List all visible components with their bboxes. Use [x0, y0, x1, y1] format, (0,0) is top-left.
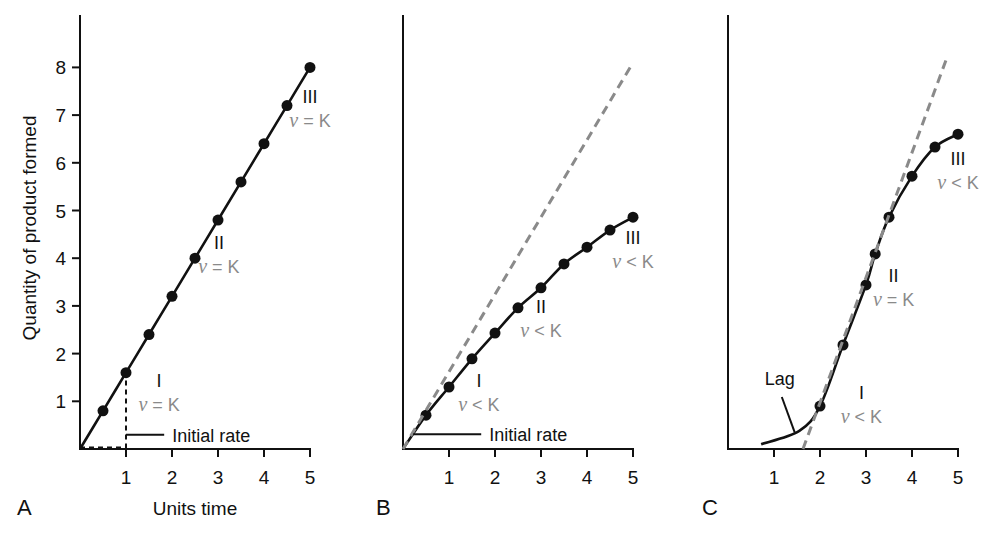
rate-label: ν < K: [520, 319, 561, 341]
phase-label: III: [302, 87, 317, 107]
data-point: [605, 225, 616, 236]
data-point: [559, 258, 570, 269]
panel-letter-a: A: [17, 495, 32, 520]
phase-label: I: [859, 383, 864, 403]
data-point: [236, 176, 247, 187]
x-tick-label: 1: [769, 467, 780, 488]
rate-label: ν = K: [198, 255, 239, 277]
rate-label: ν < K: [458, 393, 499, 415]
rate-label: ν < K: [841, 405, 882, 427]
rate-label: ν < K: [612, 250, 653, 272]
x-tick-label: 5: [953, 467, 964, 488]
x-tick-label: 1: [444, 467, 455, 488]
x-tick-label: 3: [536, 467, 547, 488]
phase-label: I: [157, 371, 162, 391]
x-tick-label: 3: [861, 467, 872, 488]
x-tick-label: 5: [305, 467, 316, 488]
x-tick-label: 4: [582, 467, 593, 488]
data-point: [305, 62, 316, 73]
panel-letter-b: B: [376, 495, 391, 520]
data-point: [536, 282, 547, 293]
lag-label: Lag: [765, 369, 795, 389]
data-point: [930, 142, 941, 153]
data-point: [213, 215, 224, 226]
phase-label: II: [214, 233, 224, 253]
data-point: [582, 242, 593, 253]
initial-rate-label: Initial rate: [172, 426, 250, 446]
data-point: [490, 328, 501, 339]
x-tick-label: 3: [213, 467, 224, 488]
enzyme-progress-curves-figure: 1234512345678Iν = KIIν = KIIIν = KInitia…: [0, 0, 997, 533]
x-tick-label: 2: [490, 467, 501, 488]
panel-a: 1234512345678Iν = KIIν = KIIIν = KInitia…: [55, 15, 330, 488]
data-point: [444, 381, 455, 392]
data-point: [953, 129, 964, 140]
rate-label: ν = K: [873, 288, 914, 310]
y-tick-label: 4: [55, 248, 66, 269]
x-tick-label: 5: [628, 467, 639, 488]
data-point: [907, 171, 918, 182]
phase-label: III: [625, 228, 640, 248]
data-point: [628, 212, 639, 223]
x-tick-label: 4: [259, 467, 270, 488]
x-tick-label: 1: [121, 467, 132, 488]
y-tick-label: 5: [55, 201, 66, 222]
y-tick-label: 7: [55, 105, 66, 126]
panel-letter-c: C: [702, 495, 718, 520]
tangent-dashed-line: [803, 55, 948, 449]
x-axis-title: Units time: [153, 498, 237, 519]
progress-curve: [403, 217, 633, 449]
rate-label: ν < K: [937, 171, 978, 193]
data-point: [144, 329, 155, 340]
x-tick-label: 2: [167, 467, 178, 488]
data-point: [167, 291, 178, 302]
y-tick-label: 3: [55, 296, 66, 317]
phase-label: III: [950, 149, 965, 169]
annotation-pointer: [782, 397, 795, 432]
y-axis-title: Quantity of product formed: [19, 116, 40, 341]
data-point: [98, 405, 109, 416]
data-point: [259, 138, 270, 149]
data-point: [467, 353, 478, 364]
tangent-dashed-line: [403, 63, 633, 449]
rate-label: ν = K: [138, 393, 179, 415]
y-tick-label: 6: [55, 153, 66, 174]
data-point: [513, 302, 524, 313]
y-tick-label: 2: [55, 344, 66, 365]
x-tick-label: 4: [907, 467, 918, 488]
phase-label: II: [889, 266, 899, 286]
y-tick-label: 1: [55, 391, 66, 412]
x-tick-label: 2: [815, 467, 826, 488]
panel-c: 12345Iν < KIIν = KIIIν < KLag: [727, 15, 979, 488]
rate-label: ν = K: [289, 109, 330, 131]
data-point: [121, 367, 132, 378]
phase-label: II: [536, 297, 546, 317]
phase-label: I: [476, 371, 481, 391]
initial-rate-label: Initial rate: [489, 425, 567, 445]
panel-b: 12345Iν < KIIν < KIIIν < KInitial rate: [402, 15, 654, 488]
y-tick-label: 8: [55, 57, 66, 78]
